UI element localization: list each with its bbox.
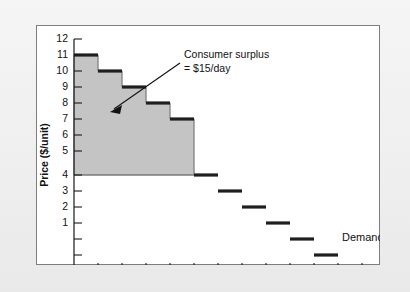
y-tick-label-12: 12: [56, 32, 68, 44]
y-tick-label-3: 3: [62, 184, 68, 196]
x-axis-ticks: [98, 263, 362, 265]
y-tick-label-2: 2: [62, 200, 68, 212]
consumer-surplus-label-line1: Consumer surplus: [184, 48, 269, 60]
y-tick-label-11: 11: [57, 48, 68, 60]
consumer-surplus-region: [74, 55, 194, 175]
y-tick-label-5: 5: [62, 144, 68, 156]
y-axis-tick-labels: 12 11 10 9 8 7 6 5 4 3 2 1 0: [56, 32, 68, 265]
demand-curve-chart: 12 11 10 9 8 7 6 5 4 3 2 1 0 0 1 2 3 4 5: [36, 25, 380, 265]
y-tick-label-10: 10: [56, 64, 68, 76]
y-axis-title: Price ($/unit): [38, 123, 50, 187]
demand-curve-label: Demand: [342, 231, 380, 243]
y-tick-label-8: 8: [62, 96, 68, 108]
y-tick-label-6: 6: [62, 128, 68, 140]
consumer-surplus-label-line2: = $15/day: [184, 62, 231, 74]
y-tick-label-4: 4: [62, 168, 68, 180]
consumer-surplus-fill: [74, 55, 194, 175]
y-tick-label-9: 9: [62, 80, 68, 92]
y-tick-label-1: 1: [62, 216, 68, 228]
y-tick-label-0: 0: [62, 264, 68, 265]
y-tick-label-7: 7: [62, 112, 68, 124]
